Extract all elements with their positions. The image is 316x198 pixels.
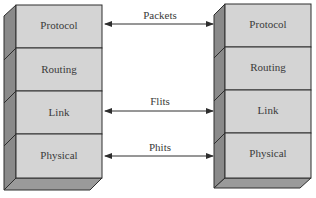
packets-label: Packets (143, 9, 177, 21)
left-layer-protocol-label: Protocol (40, 19, 77, 31)
left-layer-link-label: Link (49, 106, 70, 118)
left-layer-routing-label: Routing (41, 63, 77, 75)
left-layer-physical-label: Physical (40, 149, 77, 161)
right-protocol-stack: Protocol Routing Link Physical (214, 4, 311, 188)
right-layer-protocol-label: Protocol (249, 18, 286, 30)
left-protocol-stack: Protocol Routing Link Physical (4, 5, 102, 190)
phits-connection: Phits (105, 141, 213, 156)
flits-label: Flits (150, 95, 170, 107)
right-layer-physical-label: Physical (249, 147, 286, 159)
phits-label: Phits (149, 141, 171, 153)
right-layer-routing-label: Routing (250, 61, 286, 73)
packets-connection: Packets (105, 9, 213, 24)
right-layer-link-label: Link (258, 104, 279, 116)
flits-connection: Flits (105, 95, 213, 111)
